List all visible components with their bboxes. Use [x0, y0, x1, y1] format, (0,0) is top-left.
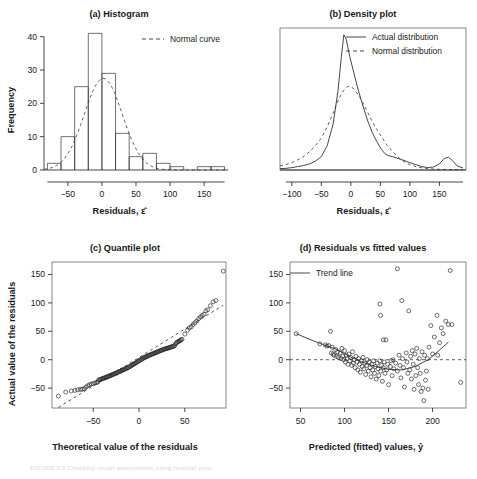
- data-point: [411, 362, 415, 366]
- data-point: [448, 269, 452, 273]
- data-point: [329, 329, 333, 333]
- panel-c-ytick: 100: [31, 298, 46, 308]
- panel-b-xtick: 0: [348, 189, 353, 199]
- data-point: [413, 352, 417, 356]
- panel-c-xtick: −50: [86, 416, 101, 426]
- panel-a-title: (a) Histogram: [89, 9, 148, 19]
- data-point: [420, 350, 424, 354]
- data-point: [380, 379, 384, 383]
- data-point: [407, 309, 411, 313]
- panel-c-xtick: 50: [180, 416, 190, 426]
- data-point: [373, 371, 377, 375]
- data-point: [409, 377, 413, 381]
- data-point: [377, 374, 381, 378]
- data-point: [358, 370, 362, 374]
- data-point: [221, 269, 225, 273]
- data-point: [424, 378, 428, 382]
- data-point: [56, 394, 60, 398]
- panel-a-xlabel: Residuals, ε̂: [93, 206, 148, 216]
- histogram-bar: [129, 157, 143, 170]
- data-point: [392, 367, 396, 371]
- data-point: [374, 377, 378, 381]
- panel-d-ytick: 0: [278, 355, 283, 365]
- trend-line: [296, 334, 448, 370]
- histogram-bar: [197, 167, 211, 170]
- panel-c-xlabel: Theoretical value of the residuals: [52, 442, 198, 452]
- panel-c-title: (c) Quantile plot: [90, 243, 160, 253]
- panel-b-title: (b) Density plot: [330, 9, 397, 19]
- panel-a-xtick: 150: [197, 189, 212, 199]
- data-point: [69, 389, 73, 393]
- panel-a-xtick: −50: [61, 189, 76, 199]
- panel-b-xtick: 150: [432, 189, 447, 199]
- data-point: [417, 383, 421, 387]
- data-point: [438, 341, 442, 345]
- panel-d-ytick: 50: [273, 326, 283, 336]
- data-point: [378, 302, 382, 306]
- legend-label-normal-curve: Normal curve: [170, 34, 220, 44]
- histogram-bar: [88, 33, 102, 170]
- data-point: [429, 324, 433, 328]
- data-point: [343, 349, 347, 353]
- data-point: [351, 350, 355, 354]
- data-point: [427, 345, 431, 349]
- panel-b-xtick: −100: [282, 189, 302, 199]
- data-point: [208, 304, 212, 308]
- histogram-svg: (a) Histogram 010203040−50050100150 Resi…: [0, 0, 238, 232]
- data-point: [361, 355, 365, 359]
- histogram-bar: [211, 167, 225, 170]
- figure-caption: FIGURE 8.5 Checking model assumptions us…: [0, 462, 477, 479]
- data-point: [76, 388, 80, 392]
- histogram-bar: [47, 163, 61, 170]
- data-point: [397, 353, 401, 357]
- data-point: [436, 353, 440, 357]
- histogram-bar: [116, 133, 130, 170]
- data-point: [414, 374, 418, 378]
- histogram-bar: [170, 167, 184, 170]
- density-series-2: [280, 86, 463, 170]
- legend-label-trend-line: Trend line: [316, 268, 353, 278]
- panel-c-ytick: 150: [31, 269, 46, 279]
- panel-b-xtick: 50: [376, 189, 386, 199]
- histogram-bar: [75, 87, 89, 170]
- data-point: [399, 376, 403, 380]
- panel-a-ytick: 10: [27, 132, 37, 142]
- histogram-bar: [102, 73, 116, 170]
- quantile-svg: (c) Quantile plot −50050100150−50050 The…: [0, 232, 238, 464]
- panel-c-ytick: 50: [35, 326, 45, 336]
- data-point: [422, 399, 426, 403]
- data-point: [439, 326, 443, 330]
- data-point: [435, 313, 439, 317]
- data-point: [379, 313, 383, 317]
- panel-d-xtick: 100: [337, 416, 352, 426]
- data-point: [340, 346, 344, 350]
- data-point: [405, 360, 409, 364]
- panel-d-ytick: −50: [268, 383, 283, 393]
- data-point: [432, 335, 436, 339]
- panel-density: (b) Density plot −100−50050100150 Residu…: [238, 0, 477, 232]
- panel-b-xlabel: Residuals, ε̂: [337, 206, 392, 216]
- histogram-bar: [143, 153, 157, 170]
- panel-c-frame: [52, 262, 226, 408]
- panel-d-xtick: 150: [381, 416, 396, 426]
- data-point: [409, 354, 413, 358]
- data-point: [183, 332, 187, 336]
- data-point: [384, 338, 388, 342]
- panel-a-xtick: 100: [163, 189, 178, 199]
- data-point: [402, 385, 406, 389]
- panel-quantile: (c) Quantile plot −50050100150−50050 The…: [0, 232, 238, 464]
- data-point: [375, 361, 379, 365]
- data-point: [353, 366, 357, 370]
- panel-resid-vs-fitted: (d) Residuals vs fitted values −50050100…: [238, 232, 477, 464]
- data-point: [378, 359, 382, 363]
- data-point: [394, 361, 398, 365]
- data-point: [379, 369, 383, 373]
- data-point: [386, 362, 390, 366]
- data-point: [354, 354, 358, 358]
- panel-d-frame: [290, 262, 466, 408]
- data-point: [424, 369, 428, 373]
- data-point: [459, 380, 463, 384]
- data-point: [410, 349, 414, 353]
- resid-svg: (d) Residuals vs fitted values −50050100…: [238, 232, 477, 464]
- panel-d-xlabel: Predicted (fitted) values, ŷ: [309, 442, 424, 452]
